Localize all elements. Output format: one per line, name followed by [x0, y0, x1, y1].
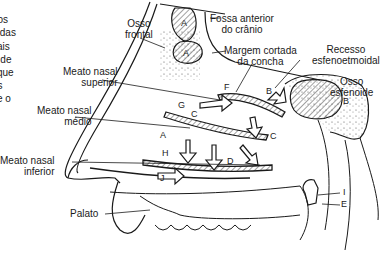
- label-palato: Palato: [70, 208, 98, 219]
- label-recesso-esfenoetmoidal: Recesso esfenoetmoidal: [312, 44, 380, 66]
- label-line: médio: [37, 116, 91, 127]
- pharynx: [318, 120, 378, 250]
- label-margem-cortada: Margem cortada da concha: [224, 45, 297, 67]
- letter-e: E: [341, 199, 347, 209]
- label-meato-superior: Meato nasal superior: [63, 66, 117, 88]
- letter-f: F: [224, 82, 230, 92]
- letter-c-2: C: [270, 131, 277, 141]
- label-line: Osso: [330, 76, 373, 87]
- leader-lines: [72, 18, 340, 214]
- letter-a-arrow: A: [160, 130, 166, 140]
- label-osso-esfenoide: Osso esfenoide: [330, 76, 373, 98]
- label-line: Meato nasal: [63, 66, 117, 77]
- label-line: esfenoetmoidal: [312, 55, 380, 66]
- label-fossa-anterior: Fossa anterior do crânio: [210, 13, 274, 35]
- letter-j: J: [160, 173, 165, 183]
- label-line: Fossa anterior: [210, 13, 274, 24]
- label-osso-frontal: Osso frontal: [125, 18, 153, 40]
- letter-b-recess: B: [266, 86, 272, 96]
- letter-h: H: [162, 148, 169, 158]
- palate-and-teeth: [110, 186, 308, 240]
- letter-g: G: [178, 100, 185, 110]
- label-line: superior: [63, 77, 117, 88]
- label-line: inferior: [0, 166, 54, 177]
- label-line: frontal: [125, 29, 153, 40]
- letter-a-upper: A: [181, 18, 187, 28]
- label-meato-inferior: Meato nasal inferior: [0, 155, 54, 177]
- label-line: Margem cortada: [224, 45, 297, 56]
- label-line: esfenoide: [330, 87, 373, 98]
- letter-a-lower: A: [183, 48, 189, 58]
- label-line: Meato nasal: [37, 105, 91, 116]
- label-line: Osso: [125, 18, 153, 29]
- letter-c-1: C: [191, 109, 198, 119]
- label-line: da concha: [224, 56, 297, 67]
- label-line: Meato nasal: [0, 155, 54, 166]
- nasal-cavity-illustration: A A B F B G C C A D H J I E: [0, 0, 382, 260]
- label-line: Recesso: [312, 44, 380, 55]
- label-meato-medio: Meato nasal médio: [37, 105, 91, 127]
- label-line: do crânio: [210, 24, 274, 35]
- letter-i: I: [343, 187, 346, 197]
